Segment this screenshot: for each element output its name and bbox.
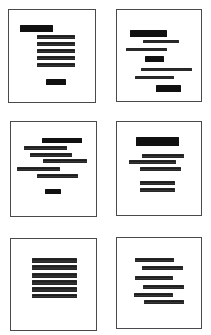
clipped-top-text [0,0,211,3]
page-thumbnail-6 [116,237,202,329]
text-line [143,285,184,289]
text-line [142,266,183,270]
text-line [43,159,87,163]
text-line [37,63,75,67]
text-line [37,35,75,39]
text-line [142,154,184,158]
heading-block [130,30,167,37]
text-line [129,160,176,164]
text-line [32,265,77,270]
text-line [144,300,184,304]
text-line [134,293,173,297]
page-thumbnail-3 [10,121,97,217]
text-line [30,153,72,157]
text-line [135,276,173,280]
text-line [32,294,77,298]
page-thumbnail-5 [10,238,97,331]
text-line [140,167,181,171]
text-line [140,188,175,192]
heading-block [45,189,61,194]
text-line [37,56,75,60]
text-line [143,40,179,43]
text-line [32,287,77,292]
text-line [17,167,60,171]
text-line [126,48,167,51]
text-line [32,273,77,278]
text-line [135,76,174,79]
text-line [141,68,192,71]
heading-block [156,85,181,92]
text-line [37,174,78,178]
text-line [37,49,75,53]
text-line [37,42,75,46]
text-line [24,146,67,150]
heading-block [46,79,66,85]
text-line [140,181,175,185]
text-line [32,258,77,263]
heading-block [136,137,179,146]
heading-block [20,25,53,32]
page-thumbnail-1 [8,9,96,103]
text-line [32,280,77,285]
heading-block [42,138,82,143]
text-line [135,258,174,262]
heading-block [145,56,164,62]
page-thumbnail-4 [116,121,202,216]
page-thumbnail-2 [116,9,202,102]
